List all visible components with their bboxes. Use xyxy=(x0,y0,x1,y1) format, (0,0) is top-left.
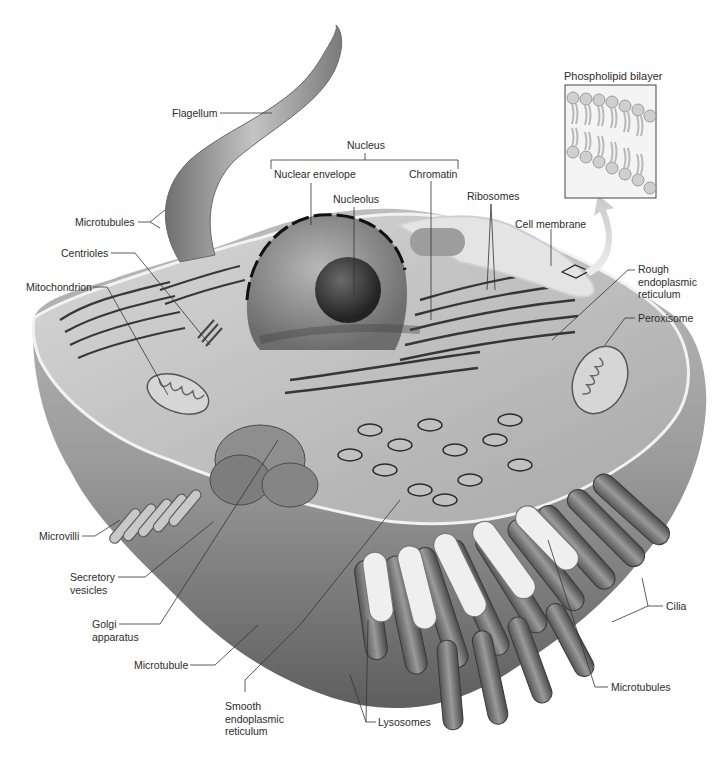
label-centrioles: Centrioles xyxy=(61,247,108,260)
label-chromatin: Chromatin xyxy=(409,168,457,181)
label-nucleolus: Nucleolus xyxy=(333,193,379,206)
label-microtubule: Microtubule xyxy=(134,659,188,672)
label-ribosomes: Ribosomes xyxy=(467,190,520,203)
label-microtubules-cilia: Microtubules xyxy=(611,681,671,694)
label-mitochondrion: Mitochondrion xyxy=(26,281,92,294)
label-cilia: Cilia xyxy=(666,600,686,613)
cell-diagram: Flagellum Nucleus Nuclear envelope Nucle… xyxy=(0,0,717,759)
label-phospholipid-bilayer: Phospholipid bilayer xyxy=(564,70,662,83)
cell-illustration xyxy=(0,0,717,759)
label-microvilli: Microvilli xyxy=(39,530,79,543)
label-nuclear-envelope: Nuclear envelope xyxy=(274,168,356,181)
label-microtubules-flagellum: Microtubules xyxy=(75,216,135,229)
nucleolus xyxy=(315,257,381,323)
label-nucleus: Nucleus xyxy=(347,139,385,152)
label-flagellum: Flagellum xyxy=(172,107,218,120)
label-peroxisome: Peroxisome xyxy=(638,312,693,325)
label-secretory-vesicles: Secretory vesicles xyxy=(70,571,115,596)
label-cell-membrane: Cell membrane xyxy=(515,218,586,231)
label-lysosomes: Lysosomes xyxy=(378,716,431,729)
label-rough-er: Rough endoplasmic reticulum xyxy=(638,263,697,301)
phospholipid-bilayer-inset xyxy=(565,85,656,198)
label-golgi-apparatus: Golgi apparatus xyxy=(92,618,139,643)
label-smooth-er: Smooth endoplasmic reticulum xyxy=(225,700,284,738)
vacuole xyxy=(410,228,465,256)
